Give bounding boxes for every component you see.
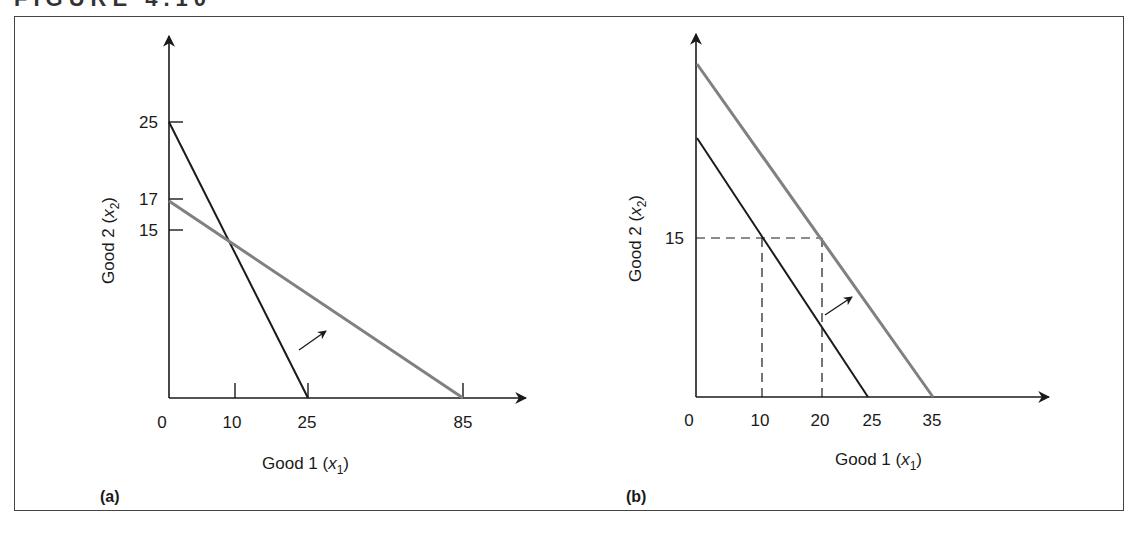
panel-a: 25 17 15 0 10 25 85 Good 1 (x1) Good 2 (… (99, 36, 526, 505)
x-tick-label: 10 (751, 411, 770, 430)
panel-label-a: (a) (100, 488, 120, 505)
y-axis-label: Good 2 (x2) (626, 195, 649, 282)
original-budget-line (169, 122, 308, 398)
x-tick-label: 85 (454, 413, 473, 432)
x-tick-label: 25 (863, 411, 882, 430)
x-tick-label: 35 (923, 411, 942, 430)
x-tick-label: 10 (223, 413, 242, 432)
panel-b: 15 0 10 20 25 35 Good 1 (x1) Good 2 (x2)… (626, 34, 1049, 505)
x-tick-label: 0 (684, 411, 693, 430)
shift-arrow-icon (299, 331, 326, 350)
y-tick-label: 15 (139, 221, 158, 240)
y-axis-label: Good 2 (x2) (99, 197, 122, 284)
new-budget-line (697, 64, 933, 397)
x-tick-label: 25 (298, 413, 317, 432)
shift-arrow-icon (825, 297, 852, 315)
y-tick-label: 15 (665, 229, 684, 248)
figure-plots: 25 17 15 0 10 25 85 Good 1 (x1) Good 2 (… (0, 0, 1141, 537)
x-axis-label: Good 1 (x1) (835, 450, 922, 473)
y-tick-label: 25 (139, 113, 158, 132)
x-axis-label: Good 1 (x1) (262, 454, 349, 477)
x-tick-label: 20 (811, 411, 830, 430)
x-tick-label: 0 (157, 413, 166, 432)
new-budget-line (169, 201, 463, 398)
y-tick-label: 17 (139, 190, 158, 209)
panel-label-b: (b) (626, 488, 646, 505)
